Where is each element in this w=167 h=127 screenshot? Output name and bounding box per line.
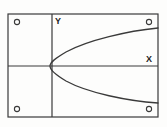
x-axis-label: X (146, 54, 152, 64)
figure-root: Y X (0, 0, 167, 127)
parabola-diagram: Y X (0, 0, 167, 127)
figure-background (0, 0, 167, 127)
y-axis-label: Y (55, 16, 61, 26)
